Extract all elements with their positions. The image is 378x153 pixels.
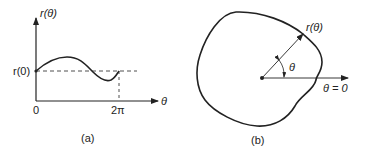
angle-label: θ (289, 61, 295, 73)
y-axis-label: r(θ) (40, 7, 57, 19)
panel-b: r(θ) θ θ = 0 (b) (197, 12, 348, 146)
x-axis-label: θ (161, 95, 167, 107)
r0-label: r(0) (13, 65, 30, 77)
caption-a: (a) (81, 132, 94, 144)
tick-origin-label: 0 (33, 104, 39, 116)
polar-curve (197, 12, 322, 126)
tick-2pi-label: 2π (111, 104, 125, 116)
radius-vector (262, 34, 303, 78)
angle-arc (279, 60, 284, 77)
start-point (34, 69, 37, 72)
figure: r(θ) r(0) 0 2π θ (a) r(θ) θ θ = 0 (b) (0, 0, 378, 153)
caption-b: (b) (251, 134, 264, 146)
r-theta-curve (36, 57, 119, 81)
radius-label: r(θ) (306, 21, 323, 33)
reference-label: θ = 0 (323, 82, 349, 94)
panel-a: r(θ) r(0) 0 2π θ (a) (13, 7, 167, 144)
